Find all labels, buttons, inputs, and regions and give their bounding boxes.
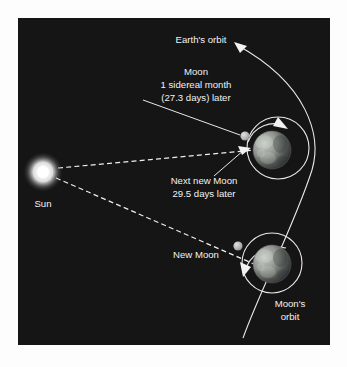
moon-dot-lower bbox=[233, 241, 242, 250]
label-earths-orbit: Earth's orbit bbox=[176, 34, 227, 45]
label-moon-sidereal-month: 1 sidereal month bbox=[161, 79, 232, 90]
label-sun: Sun bbox=[34, 198, 51, 209]
label-moon-title: Moon bbox=[184, 66, 208, 77]
diagram-canvas: Earth's orbit Moon 1 sidereal month (27.… bbox=[18, 18, 330, 345]
label-moon-days-later: (27.3 days) later bbox=[161, 92, 231, 103]
earth-lower bbox=[253, 245, 291, 283]
sun-body bbox=[23, 152, 63, 192]
label-moons-orbit-line2: orbit bbox=[281, 311, 300, 322]
earth-upper bbox=[253, 131, 291, 169]
moon-dot-upper bbox=[240, 131, 249, 140]
label-next-new-moon: Next new Moon bbox=[171, 175, 238, 186]
sky-panel: Earth's orbit Moon 1 sidereal month (27.… bbox=[18, 18, 330, 345]
label-new-moon: New Moon bbox=[173, 249, 219, 260]
label-moons-orbit-line1: Moon's bbox=[275, 298, 306, 309]
label-next-new-moon-days: 29.5 days later bbox=[173, 188, 237, 199]
astronomy-diagram-figure: Earth's orbit Moon 1 sidereal month (27.… bbox=[0, 0, 347, 367]
